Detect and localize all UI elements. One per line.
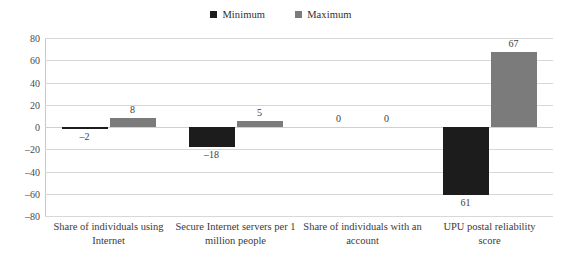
y-axis-tick-label: –40: [25, 166, 40, 177]
category-label-line1: Share of individuals with an: [299, 220, 426, 234]
y-axis-tick-label: 60: [30, 55, 40, 66]
legend-label-minimum: Minimum: [222, 9, 265, 20]
bar-value-label: 5: [257, 107, 262, 118]
category-label-3: UPU postal reliabilityscore: [426, 220, 553, 248]
category-label-0: Share of individuals usingInternet: [45, 220, 172, 248]
legend-swatch-maximum: [295, 11, 302, 18]
legend-label-maximum: Maximum: [307, 9, 351, 20]
y-axis-tick-label: –60: [25, 188, 40, 199]
bar-value-label: –18: [204, 149, 219, 160]
bar-value-label: –2: [80, 131, 90, 142]
category-label-line1: Share of individuals using: [45, 220, 172, 234]
y-axis-tick-label: –80: [25, 211, 40, 222]
bar-chart: Minimum Maximum 806040200–20–40–60–80–28…: [0, 0, 562, 262]
bar-value-label: 8: [130, 104, 135, 115]
bar-value-label: 67: [509, 38, 519, 49]
bar-group: –185: [172, 38, 299, 216]
gridline--80: [45, 216, 553, 217]
legend-item-maximum: Maximum: [295, 9, 351, 20]
category-label-line2: million people: [172, 234, 299, 248]
y-axis-tick-label: 80: [30, 33, 40, 44]
bar-value-label: 0: [384, 113, 389, 124]
category-label-2: Share of individuals with anaccount: [299, 220, 426, 248]
y-axis-tick-label: 40: [30, 77, 40, 88]
bar-value-label: 0: [336, 113, 341, 124]
bar-minimum-1[interactable]: [189, 127, 235, 147]
plot-area: 806040200–20–40–60–80–28–185006167: [45, 38, 553, 216]
bar-maximum-3[interactable]: [491, 52, 537, 127]
bar-group: 6167: [426, 38, 553, 216]
bar-value-label: 61: [461, 197, 471, 208]
y-axis-tick-label: –20: [25, 144, 40, 155]
bar-group: 00: [299, 38, 426, 216]
bar-maximum-1[interactable]: [237, 121, 283, 127]
bar-minimum-0[interactable]: [62, 127, 108, 129]
chart-legend: Minimum Maximum: [0, 9, 562, 20]
category-label-line2: Internet: [45, 234, 172, 248]
x-axis-category-labels: Share of individuals usingInternetSecure…: [45, 220, 553, 260]
y-axis-tick-label: 0: [35, 122, 40, 133]
category-label-line1: UPU postal reliability: [426, 220, 553, 234]
legend-swatch-minimum: [210, 11, 217, 18]
bar-maximum-0[interactable]: [110, 118, 156, 127]
legend-item-minimum: Minimum: [210, 9, 265, 20]
category-label-1: Secure Internet servers per 1million peo…: [172, 220, 299, 248]
category-label-line2: score: [426, 234, 553, 248]
bar-group: –28: [45, 38, 172, 216]
category-label-line2: account: [299, 234, 426, 248]
category-label-line1: Secure Internet servers per 1: [172, 220, 299, 234]
y-axis-tick-label: 20: [30, 99, 40, 110]
bar-minimum-3[interactable]: [443, 127, 489, 195]
